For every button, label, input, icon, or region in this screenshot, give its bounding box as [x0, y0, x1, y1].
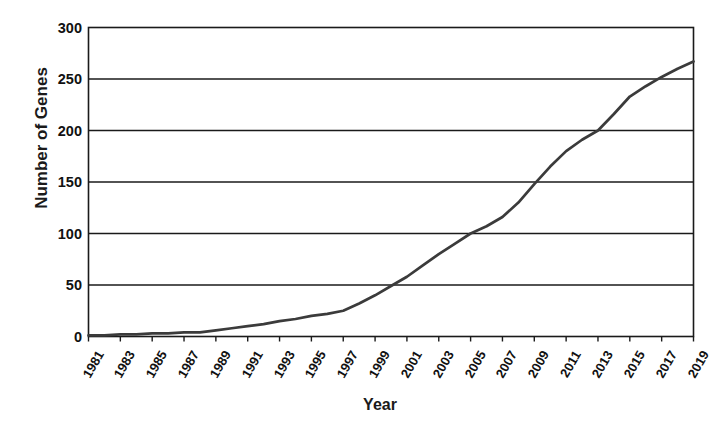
x-axis-title: Year	[330, 396, 430, 414]
x-tick-label: 2019	[684, 348, 709, 381]
x-tick-label: 2003	[429, 348, 456, 381]
x-tick-label: 2011	[557, 348, 584, 380]
x-tick-label: 1995	[302, 348, 329, 381]
x-tick-label: 1989	[206, 348, 233, 381]
x-tick-label: 1993	[270, 348, 297, 381]
x-tick-label: 1981	[79, 348, 106, 381]
gene-count-line-chart: Number of Genes 050100150200250300 19811…	[0, 0, 709, 428]
x-tick-label: 1999	[366, 348, 393, 381]
gridlines	[89, 79, 694, 285]
x-tick-label: 2009	[525, 348, 552, 381]
x-tick-label: 2013	[589, 348, 616, 381]
x-tick-label: 2007	[493, 348, 520, 381]
x-tick-label: 1985	[143, 348, 170, 381]
x-tick-label: 1987	[175, 348, 202, 381]
x-tick-label: 1983	[111, 348, 138, 381]
x-tick-label: 2005	[461, 348, 488, 381]
x-tick-label: 1997	[334, 348, 361, 381]
x-tick-label: 2017	[652, 348, 679, 381]
x-tick-label: 2015	[620, 348, 647, 381]
x-tick-label: 1991	[238, 348, 265, 381]
x-tick-label: 2001	[397, 348, 424, 381]
data-series-line	[89, 61, 694, 335]
